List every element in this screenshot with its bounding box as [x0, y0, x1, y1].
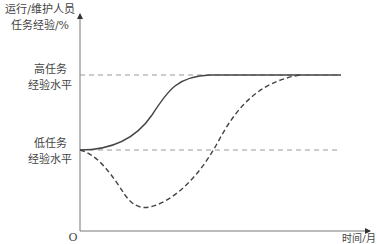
solid-curve: [80, 75, 341, 150]
dashed-curve: [80, 75, 300, 208]
chart-plot: [0, 0, 377, 244]
